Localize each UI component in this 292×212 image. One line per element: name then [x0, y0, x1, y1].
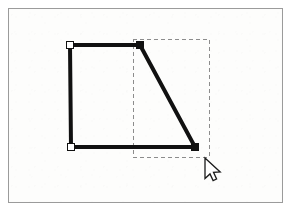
node-top-right[interactable]	[137, 42, 144, 49]
vector-editor-screenshot: Vector Path Node Editing	[0, 0, 292, 212]
node-top-left[interactable]	[67, 42, 74, 49]
mouse-pointer-icon	[205, 158, 220, 181]
drawing-canvas[interactable]	[0, 0, 292, 212]
node-bottom-left[interactable]	[68, 144, 75, 151]
node-bottom-right[interactable]	[192, 144, 199, 151]
mouse-pointer	[205, 158, 220, 181]
